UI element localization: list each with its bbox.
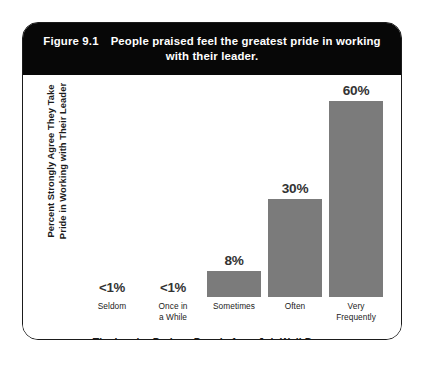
bar-slot-sometimes: 8% — [207, 81, 261, 297]
x-tick-sometimes: Sometimes — [199, 301, 269, 312]
x-tick-once-in-a-while-line2: a While — [138, 312, 208, 323]
figure-root: Figure 9.1People praised feel the greate… — [0, 0, 427, 368]
bar-often — [268, 199, 322, 297]
bar-value-once-in-a-while: <1% — [138, 280, 208, 295]
y-axis-label-line2: Pride in Working with Their Leader — [57, 83, 70, 239]
bar-very-frequently — [329, 101, 383, 297]
x-tick-seldom: Seldom — [77, 301, 147, 312]
y-axis-label: Percent Strongly Agree They Take Pride i… — [41, 65, 73, 257]
x-tick-once-in-a-while: Once in a While — [138, 301, 208, 322]
figure-number: Figure 9.1 — [43, 35, 98, 47]
x-tick-very-frequently-line2: Frequently — [321, 312, 391, 323]
bar-slot-very-frequently: 60% — [329, 81, 383, 297]
bar-value-often: 30% — [260, 181, 330, 196]
figure-title-line1: People praised feel the greatest pride i… — [111, 35, 381, 47]
x-tick-often: Often — [260, 301, 330, 312]
x-tick-often-line1: Often — [260, 301, 330, 312]
x-axis-tick-labels: Seldom Once in a While Sometimes Often V… — [85, 301, 381, 335]
bar-value-very-frequently: 60% — [321, 83, 391, 98]
x-tick-very-frequently-line1: Very — [321, 301, 391, 312]
bar-slot-once-in-a-while: <1% — [146, 81, 200, 297]
x-tick-once-in-a-while-line1: Once in — [138, 301, 208, 312]
x-tick-seldom-line1: Seldom — [77, 301, 147, 312]
x-tick-sometimes-line1: Sometimes — [199, 301, 269, 312]
y-axis-label-line1: Percent Strongly Agree They Take — [45, 84, 58, 237]
figure-title-band: Figure 9.1People praised feel the greate… — [23, 23, 401, 75]
bar-slot-often: 30% — [268, 81, 322, 297]
bar-sometimes — [207, 271, 261, 297]
x-axis-label: The Leader Praises People for a Job Well… — [23, 337, 401, 340]
bar-series: <1% <1% 8% 30% 60% — [85, 81, 381, 297]
x-tick-very-frequently: Very Frequently — [321, 301, 391, 322]
figure-panel: Figure 9.1People praised feel the greate… — [22, 22, 402, 340]
plot-area: Percent Strongly Agree They Take Pride i… — [23, 75, 401, 340]
bar-slot-seldom: <1% — [85, 81, 139, 297]
figure-title: Figure 9.1People praised feel the greate… — [42, 34, 382, 65]
bar-value-sometimes: 8% — [199, 253, 269, 268]
figure-title-line2: with their leader. — [166, 50, 259, 62]
bar-value-seldom: <1% — [77, 280, 147, 295]
